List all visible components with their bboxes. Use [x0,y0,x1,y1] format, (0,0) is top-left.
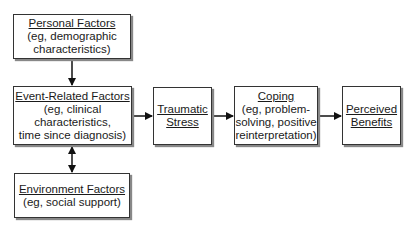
event-related-factors-detail-1: (eg, clinical [44,103,102,116]
personal-factors-detail-1: (eg, demographic [27,30,117,43]
environment-factors-box: Environment Factors (eg, social support) [14,173,130,218]
event-related-factors-title: Event-Related Factors [15,90,129,103]
coping-detail-2: solving, positive [235,116,316,129]
personal-factors-box: Personal Factors (eg, demographic charac… [13,14,131,59]
personal-factors-title: Personal Factors [29,17,116,30]
traumatic-stress-title-2: Stress [166,116,199,129]
environment-factors-title: Environment Factors [19,183,125,196]
coping-box: Coping (eg, problem- solving, positive r… [234,86,318,145]
perceived-benefits-title-2: Benefits [351,116,393,129]
traumatic-stress-title-1: Traumatic [157,103,208,116]
coping-title: Coping [258,90,294,103]
event-related-factors-detail-2: characteristics, [34,116,111,129]
perceived-benefits-box: Perceived Benefits [342,86,401,145]
perceived-benefits-title-1: Perceived [346,103,397,116]
environment-factors-detail-1: (eg, social support) [23,196,121,209]
event-related-factors-detail-3: time since diagnosis) [19,129,126,142]
event-related-factors-box: Event-Related Factors (eg, clinical char… [13,86,132,145]
traumatic-stress-box: Traumatic Stress [153,87,212,145]
coping-detail-1: (eg, problem- [242,103,310,116]
coping-detail-3: reinterpretation) [235,129,316,142]
personal-factors-detail-2: characteristics) [33,43,110,56]
